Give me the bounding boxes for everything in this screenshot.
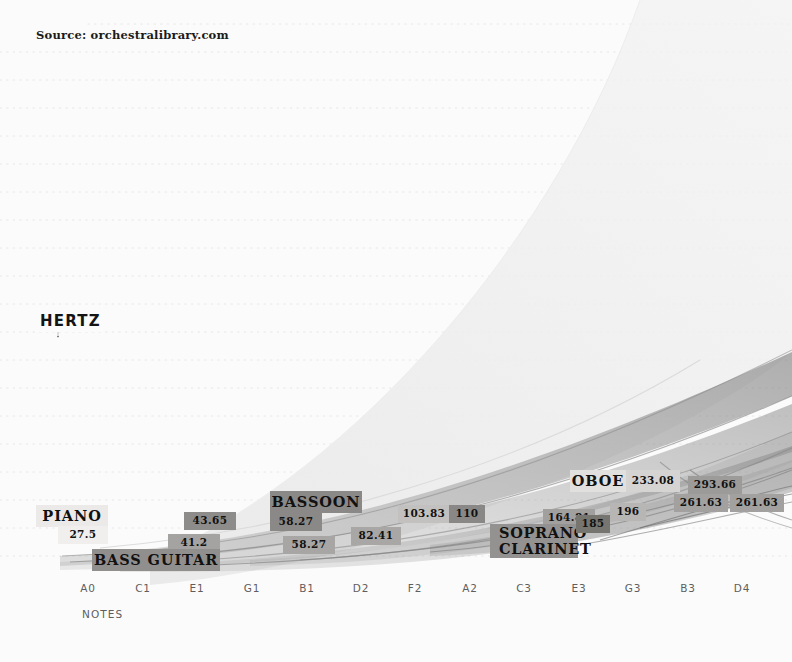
x-tick-c1: C1	[135, 582, 151, 594]
x-tick-e3: E3	[572, 582, 587, 594]
value-82-41: 82.41	[351, 527, 401, 545]
label-piano: PIANO	[36, 505, 108, 527]
value-58-27: 58.27	[283, 536, 335, 554]
label-soprano-clarinet-line2: CLARINET	[499, 541, 592, 557]
y-axis-group: HERTZ	[40, 272, 100, 377]
x-tick-a2: A2	[462, 582, 477, 594]
label-bassoon: BASSOON	[270, 491, 362, 513]
value-43-65: 43.65	[184, 512, 236, 530]
x-tick-c3: C3	[516, 582, 532, 594]
label-bass-guitar: BASS GUITAR	[92, 549, 220, 571]
chart-canvas: Source: orchestralibrary.com HERTZ A0 C1…	[0, 0, 792, 662]
x-tick-g3: G3	[625, 582, 641, 594]
x-tick-d4: D4	[734, 582, 750, 594]
x-tick-e1: E1	[190, 582, 205, 594]
label-oboe: OBOE	[570, 470, 626, 492]
value-103-83: 103.83	[398, 505, 450, 523]
label-soprano-clarinet-line1: SOPRANO	[499, 525, 587, 541]
y-axis-label: HERTZ	[36, 310, 105, 332]
x-tick-d2: D2	[353, 582, 369, 594]
x-tick-b3: B3	[680, 582, 695, 594]
x-tick-a0: A0	[80, 582, 95, 594]
label-soprano-clarinet: SOPRANO CLARINET	[490, 524, 578, 558]
value-196: 196	[610, 503, 646, 521]
value-261-63-b: 261.63	[730, 494, 784, 512]
x-tick-f2: F2	[408, 582, 422, 594]
x-axis-label: NOTES	[82, 608, 123, 620]
value-185: 185	[576, 515, 610, 533]
value-293-66: 293.66	[688, 476, 742, 494]
x-tick-g1: G1	[244, 582, 260, 594]
x-tick-b1: B1	[299, 582, 314, 594]
value-piano-27-5: 27.5	[58, 526, 108, 544]
value-oboe-233-08: 233.08	[626, 470, 680, 492]
value-bassoon-58-27: 58.27	[270, 513, 322, 531]
value-110: 110	[449, 505, 485, 523]
source-credit: Source: orchestralibrary.com	[36, 28, 229, 42]
value-261-63-a: 261.63	[674, 494, 728, 512]
